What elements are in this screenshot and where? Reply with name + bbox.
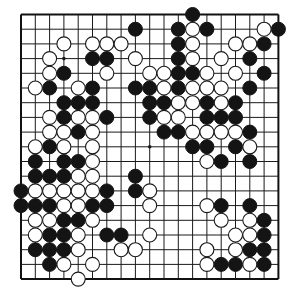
white-stone[interactable] [243, 140, 257, 154]
white-stone[interactable] [71, 110, 85, 124]
white-stone[interactable] [143, 199, 157, 213]
white-stone[interactable] [143, 66, 157, 80]
white-stone[interactable] [128, 243, 142, 257]
black-stone[interactable] [57, 228, 71, 242]
black-stone[interactable] [71, 213, 85, 227]
black-stone[interactable] [43, 257, 57, 271]
white-stone[interactable] [200, 155, 214, 169]
white-stone[interactable] [143, 184, 157, 198]
white-stone[interactable] [71, 272, 85, 286]
white-stone[interactable] [229, 125, 243, 139]
black-stone[interactable] [114, 228, 128, 242]
black-stone[interactable] [229, 110, 243, 124]
black-stone[interactable] [229, 96, 243, 110]
black-stone[interactable] [257, 257, 271, 271]
white-stone[interactable] [157, 66, 171, 80]
black-stone[interactable] [171, 81, 185, 95]
white-stone[interactable] [71, 81, 85, 95]
white-stone[interactable] [171, 110, 185, 124]
black-stone[interactable] [28, 199, 42, 213]
white-stone[interactable] [114, 37, 128, 51]
black-stone[interactable] [71, 96, 85, 110]
black-stone[interactable] [100, 184, 114, 198]
white-stone[interactable] [57, 257, 71, 271]
white-stone[interactable] [28, 81, 42, 95]
white-stone[interactable] [171, 96, 185, 110]
black-stone[interactable] [128, 22, 142, 36]
black-stone[interactable] [257, 66, 271, 80]
black-stone[interactable] [200, 96, 214, 110]
black-stone[interactable] [28, 243, 42, 257]
black-stone[interactable] [43, 81, 57, 95]
black-stone[interactable] [171, 37, 185, 51]
white-stone[interactable] [86, 110, 100, 124]
white-stone[interactable] [214, 125, 228, 139]
white-stone[interactable] [86, 140, 100, 154]
white-stone[interactable] [86, 257, 100, 271]
white-stone[interactable] [243, 228, 257, 242]
black-stone[interactable] [214, 110, 228, 124]
white-stone[interactable] [86, 155, 100, 169]
white-stone[interactable] [243, 213, 257, 227]
black-stone[interactable] [257, 213, 271, 227]
white-stone[interactable] [43, 110, 57, 124]
go-board[interactable] [0, 0, 296, 298]
black-stone[interactable] [186, 66, 200, 80]
black-stone[interactable] [243, 125, 257, 139]
black-stone[interactable] [100, 52, 114, 66]
white-stone[interactable] [57, 140, 71, 154]
black-stone[interactable] [143, 81, 157, 95]
black-stone[interactable] [100, 228, 114, 242]
black-stone[interactable] [43, 243, 57, 257]
white-stone[interactable] [200, 81, 214, 95]
black-stone[interactable] [186, 8, 200, 22]
black-stone[interactable] [243, 155, 257, 169]
black-stone[interactable] [186, 140, 200, 154]
black-stone[interactable] [100, 199, 114, 213]
black-stone[interactable] [86, 199, 100, 213]
white-stone[interactable] [57, 184, 71, 198]
white-stone[interactable] [157, 81, 171, 95]
white-stone[interactable] [71, 184, 85, 198]
black-stone[interactable] [43, 199, 57, 213]
black-stone[interactable] [257, 228, 271, 242]
white-stone[interactable] [28, 213, 42, 227]
black-stone[interactable] [71, 155, 85, 169]
black-stone[interactable] [86, 81, 100, 95]
black-stone[interactable] [171, 66, 185, 80]
black-stone[interactable] [86, 52, 100, 66]
black-stone[interactable] [14, 199, 28, 213]
white-stone[interactable] [28, 228, 42, 242]
white-stone[interactable] [100, 37, 114, 51]
white-stone[interactable] [57, 199, 71, 213]
black-stone[interactable] [128, 169, 142, 183]
black-stone[interactable] [257, 243, 271, 257]
black-stone[interactable] [43, 228, 57, 242]
black-stone[interactable] [28, 169, 42, 183]
black-stone[interactable] [214, 199, 228, 213]
white-stone[interactable] [86, 37, 100, 51]
black-stone[interactable] [271, 22, 285, 36]
black-stone[interactable] [57, 96, 71, 110]
black-stone[interactable] [57, 243, 71, 257]
black-stone[interactable] [28, 155, 42, 169]
white-stone[interactable] [57, 125, 71, 139]
white-stone[interactable] [143, 228, 157, 242]
black-stone[interactable] [128, 81, 142, 95]
black-stone[interactable] [143, 110, 157, 124]
white-stone[interactable] [86, 125, 100, 139]
black-stone[interactable] [243, 243, 257, 257]
white-stone[interactable] [128, 52, 142, 66]
white-stone[interactable] [71, 243, 85, 257]
black-stone[interactable] [157, 96, 171, 110]
black-stone[interactable] [171, 22, 185, 36]
black-stone[interactable] [86, 96, 100, 110]
white-stone[interactable] [86, 169, 100, 183]
white-stone[interactable] [57, 37, 71, 51]
black-stone[interactable] [57, 213, 71, 227]
black-stone[interactable] [200, 110, 214, 124]
black-stone[interactable] [100, 110, 114, 124]
black-stone[interactable] [243, 52, 257, 66]
white-stone[interactable] [71, 169, 85, 183]
white-stone[interactable] [43, 184, 57, 198]
